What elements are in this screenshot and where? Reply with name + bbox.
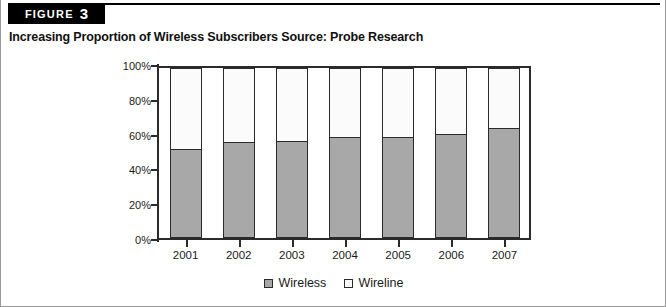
y-axis-tick-label: 40% <box>129 164 151 176</box>
x-axis-tick-label: 2001 <box>173 249 199 261</box>
x-axis-tick-label: 2004 <box>332 249 358 261</box>
figure-title: Increasing Proportion of Wireless Subscr… <box>9 30 423 44</box>
legend-swatch-icon <box>264 279 273 288</box>
y-axis-tick-mark <box>151 169 158 171</box>
bar-group <box>223 68 255 238</box>
bar-group <box>170 68 202 238</box>
x-axis-tick-label: 2006 <box>438 249 464 261</box>
stacked-bar-chart: 0%20%40%60%80%100% WirelessWireline 2001… <box>1 55 666 305</box>
y-axis-labels: 0%20%40%60%80%100% <box>101 55 151 251</box>
legend-item: Wireline <box>344 276 403 290</box>
figure-banner: FIGURE 3 <box>8 3 105 24</box>
bar-segment-wireless <box>488 128 520 238</box>
bar-group <box>329 68 361 238</box>
bar-group <box>276 68 308 238</box>
bar-segment-wireline <box>329 68 361 143</box>
plot-area <box>159 66 531 240</box>
x-axis-tick-mark <box>292 240 294 247</box>
x-axis-tick-label: 2007 <box>492 249 518 261</box>
legend-swatch-icon <box>344 279 353 288</box>
x-axis-tick-mark <box>504 240 506 247</box>
chart-legend: WirelessWireline <box>1 276 666 290</box>
banner-rule <box>105 3 660 5</box>
y-axis-tick-label: 100% <box>123 60 151 72</box>
y-axis-tick-mark <box>151 65 158 67</box>
y-axis-tick-label: 80% <box>129 95 151 107</box>
bar-segment-wireless <box>170 149 202 238</box>
x-axis-tick-mark <box>451 240 453 247</box>
bar-segment-wireless <box>223 142 255 238</box>
legend-item-label: Wireless <box>278 276 326 290</box>
bar-segment-wireless <box>329 137 361 238</box>
figure-banner-label: FIGURE <box>25 8 74 20</box>
bar-segment-wireline <box>488 68 520 134</box>
y-axis-tick-mark <box>151 135 158 137</box>
y-axis-tick-mark <box>151 239 158 241</box>
x-axis-tick-label: 2002 <box>226 249 252 261</box>
figure-container: FIGURE 3 Increasing Proportion of Wirele… <box>0 0 666 307</box>
bar-segment-wireless <box>382 137 414 238</box>
x-axis-tick-mark <box>345 240 347 247</box>
figure-banner-number: 3 <box>80 6 88 21</box>
x-axis-tick-mark <box>239 240 241 247</box>
y-axis-tick-label: 0% <box>135 234 151 246</box>
bar-segment-wireline <box>276 68 308 146</box>
y-axis-tick-label: 60% <box>129 130 151 142</box>
x-axis-tick-mark <box>398 240 400 247</box>
legend-item: Wireless <box>264 276 326 290</box>
bar-segment-wireline <box>223 68 255 148</box>
bar-group <box>488 68 520 238</box>
x-axis-tick-label: 2003 <box>279 249 305 261</box>
bar-group <box>382 68 414 238</box>
y-axis-tick-label: 20% <box>129 199 151 211</box>
bar-segment-wireless <box>435 134 467 238</box>
bar-group <box>435 68 467 238</box>
bar-segment-wireless <box>276 141 308 238</box>
bar-segment-wireline <box>170 68 202 155</box>
x-axis-tick-mark <box>186 240 188 247</box>
x-axis-tick-label: 2005 <box>385 249 411 261</box>
legend-item-label: Wireline <box>358 276 403 290</box>
bar-segment-wireline <box>382 68 414 143</box>
bar-segment-wireline <box>435 68 467 139</box>
y-axis-tick-mark <box>151 204 158 206</box>
y-axis-tick-mark <box>151 100 158 102</box>
